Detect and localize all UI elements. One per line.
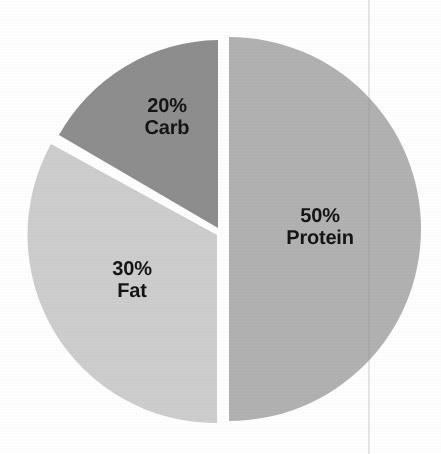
- pie-chart-figure: 20% Carb 50% Protein 30% Fat: [0, 0, 441, 454]
- slice-label-fat: 30% Fat: [86, 258, 178, 303]
- slice-label-carb: 20% Carb: [121, 95, 213, 140]
- pie-chart-canvas: [0, 0, 441, 454]
- slice-percent-fat: 30%: [86, 258, 178, 280]
- slice-name-protein: Protein: [272, 227, 368, 249]
- slice-label-protein: 50% Protein: [272, 205, 368, 250]
- slice-name-fat: Fat: [86, 280, 178, 302]
- slice-percent-carb: 20%: [121, 95, 213, 117]
- slice-percent-protein: 50%: [272, 205, 368, 227]
- slice-name-carb: Carb: [121, 117, 213, 139]
